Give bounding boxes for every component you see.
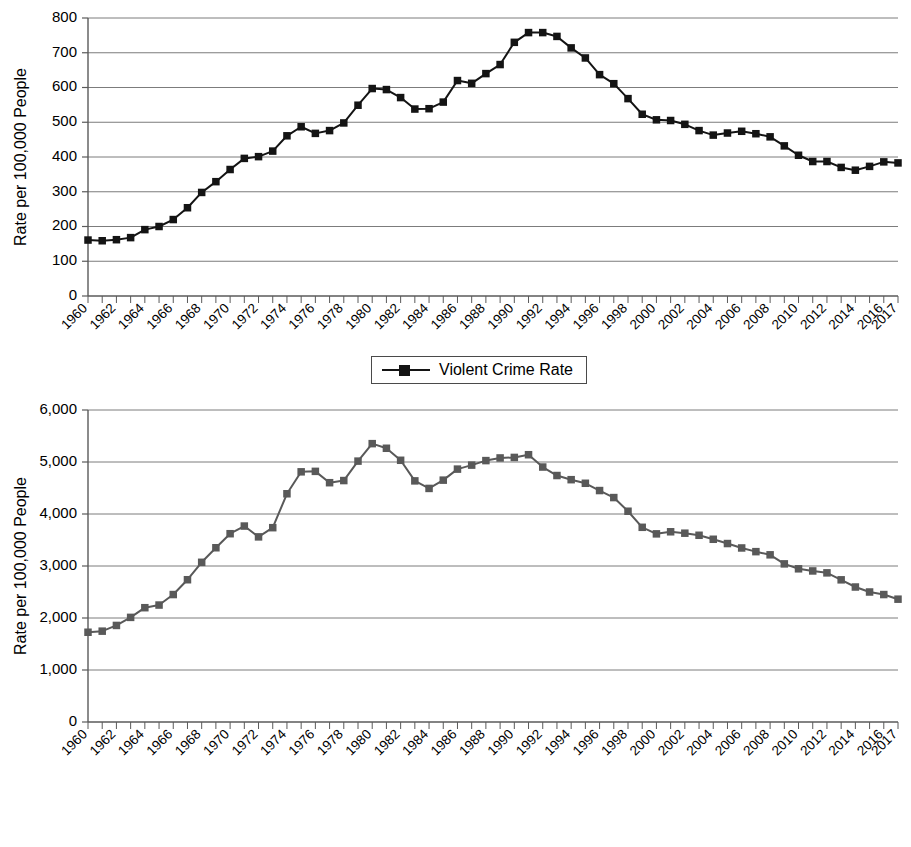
data-point-marker [738, 544, 746, 552]
x-tick-label: 1994 [541, 726, 573, 758]
data-point-marker [724, 540, 732, 548]
x-tick-label: 1970 [200, 727, 232, 759]
data-point-marker [582, 480, 590, 488]
data-point-marker [695, 127, 703, 135]
x-tick-label: 1962 [87, 301, 119, 333]
data-point-marker [241, 155, 249, 163]
data-point-marker [127, 234, 135, 242]
y-tick-label: 0 [69, 712, 77, 729]
data-point-marker [795, 565, 803, 573]
x-tick-label: 1978 [314, 727, 346, 759]
data-point-marker [624, 507, 632, 515]
x-axis-labels: 1960196219641966196819701972197419761978… [58, 300, 900, 332]
x-tick-label: 2010 [769, 727, 801, 759]
y-tick-label: 400 [52, 147, 77, 164]
data-point-marker [226, 166, 234, 174]
x-tick-label: 1998 [598, 727, 630, 759]
data-point-marker [539, 463, 547, 471]
data-point-marker [383, 86, 391, 94]
data-point-marker [354, 101, 362, 109]
data-point-marker [511, 39, 519, 47]
x-tick-label: 1992 [513, 727, 545, 759]
data-point-marker [596, 487, 604, 495]
x-tick-label: 1962 [87, 727, 119, 759]
data-point-marker [710, 131, 718, 139]
data-point-marker [127, 614, 135, 622]
data-point-marker [468, 461, 476, 469]
data-point-marker [823, 569, 831, 577]
data-point-marker [852, 166, 860, 174]
data-point-marker [809, 567, 817, 575]
x-tick-label: 1982 [371, 301, 403, 333]
x-tick-label: 2004 [684, 726, 716, 758]
violent-crime-plot: 0100200300400500600700800196019621964196… [0, 0, 911, 392]
x-tick-label: 1968 [172, 727, 204, 759]
data-point-marker [141, 604, 149, 612]
data-point-marker [653, 116, 661, 124]
data-point-marker [340, 477, 348, 485]
x-tick-label: 1990 [485, 301, 517, 333]
y-tick-label: 5,000 [39, 452, 77, 469]
data-point-marker [368, 85, 376, 93]
data-point-marker [113, 236, 121, 244]
series-line [88, 33, 898, 241]
data-point-marker [212, 544, 220, 552]
data-point-marker [269, 524, 277, 532]
y-tick-label: 2,000 [39, 608, 77, 625]
data-point-marker [582, 54, 590, 62]
x-tick-label: 1960 [58, 301, 90, 333]
y-tick-label: 800 [52, 8, 77, 25]
x-tick-label: 1990 [485, 727, 517, 759]
data-point-marker [411, 477, 419, 485]
data-point-marker [326, 127, 334, 135]
y-axis-ticks: 01,0002,0003,0004,0005,0006,000 [39, 400, 88, 729]
y-axis-title: Rate per 100,000 People [12, 68, 29, 246]
x-tick-label: 1970 [200, 301, 232, 333]
property-crime-chart: 01,0002,0003,0004,0005,0006,000196019621… [0, 392, 911, 847]
data-point-marker [567, 476, 575, 484]
data-point-marker [596, 71, 604, 79]
data-point-marker [170, 216, 178, 224]
x-tick-label: 2006 [712, 727, 744, 759]
data-point-marker [539, 29, 547, 37]
data-point-marker [653, 530, 661, 538]
data-point-marker [354, 457, 362, 465]
data-point-marker [610, 494, 618, 502]
x-tick-label: 1988 [456, 301, 488, 333]
gridlines [88, 18, 898, 261]
x-tick-label: 2010 [769, 301, 801, 333]
x-tick-label: 1998 [598, 301, 630, 333]
x-tick-label: 1984 [399, 300, 431, 332]
x-tick-label: 1996 [570, 301, 602, 333]
data-point-marker [525, 29, 533, 37]
x-axis-labels: 1960196219641966196819701972197419761978… [58, 726, 900, 758]
data-point-marker [255, 533, 263, 541]
property-crime-plot: 01,0002,0003,0004,0005,0006,000196019621… [0, 392, 911, 847]
data-point-marker [84, 629, 92, 637]
data-point-marker [340, 119, 348, 127]
x-tick-label: 1976 [286, 727, 318, 759]
data-point-marker [752, 548, 760, 556]
data-point-marker [425, 105, 433, 113]
data-point-marker [98, 627, 106, 635]
x-tick-label: 2002 [655, 727, 687, 759]
x-tick-label: 1986 [428, 301, 460, 333]
data-point-marker [368, 440, 376, 448]
data-point-marker [738, 128, 746, 136]
x-tick-label: 2014 [826, 726, 858, 758]
data-point-marker [184, 576, 192, 584]
y-axis-ticks: 0100200300400500600700800 [52, 8, 88, 303]
x-tick-label: 1994 [541, 300, 573, 332]
data-point-marker [837, 576, 845, 584]
x-tick-label: 2008 [740, 301, 772, 333]
x-tick-label: 1982 [371, 727, 403, 759]
data-point-marker [496, 454, 504, 462]
data-point-marker [155, 223, 163, 231]
x-tick-label: 1984 [399, 726, 431, 758]
data-point-marker [226, 530, 234, 538]
data-point-marker [894, 595, 902, 603]
data-point-marker [312, 130, 320, 138]
violent-crime-chart: 0100200300400500600700800196019621964196… [0, 0, 911, 392]
data-point-marker [212, 178, 220, 186]
data-point-marker [440, 98, 448, 106]
